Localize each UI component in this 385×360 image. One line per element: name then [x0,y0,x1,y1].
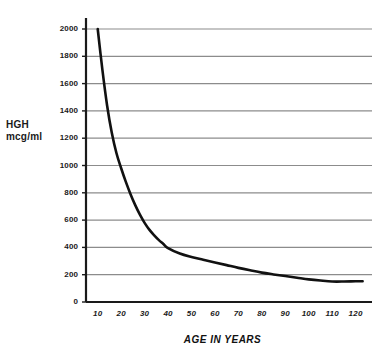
y-tick-label: 2000 [38,24,78,33]
x-tick-label: 70 [226,309,250,318]
x-axis-title: AGE IN YEARS [0,334,385,345]
y-tick-label: 1800 [38,51,78,60]
gridlines [86,29,372,275]
x-tick-label: 50 [179,309,203,318]
x-tick-label: 30 [133,309,157,318]
y-tick-label: 0 [38,297,78,306]
x-tick-label: 100 [297,309,321,318]
x-tick-label: 40 [156,309,180,318]
x-tick-label: 120 [344,309,368,318]
hgh-age-chart: HGH mcg/ml 02004006008001000120014001600… [0,0,385,360]
y-tick-label: 800 [38,188,78,197]
x-tick-label: 20 [109,309,133,318]
x-tick-label: 90 [273,309,297,318]
hgh-curve [98,29,363,282]
y-tick-label: 1600 [38,79,78,88]
y-tick-label: 600 [38,215,78,224]
x-tick-label: 110 [320,309,344,318]
y-tick-label: 1000 [38,161,78,170]
x-tick-label: 10 [86,309,110,318]
x-tick-label: 80 [250,309,274,318]
y-tick-label: 1400 [38,106,78,115]
y-tick-label: 1200 [38,133,78,142]
x-tick-label: 60 [203,309,227,318]
y-tick-label: 400 [38,242,78,251]
y-tick-label: 200 [38,270,78,279]
